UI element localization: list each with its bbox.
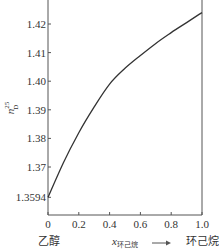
y-axis-ticks: 1.35941.371.381.391.401.411.42 (16, 18, 51, 203)
y-tick-label: 1.37 (27, 161, 47, 173)
x-axis-arrow-icon (166, 241, 171, 246)
x-tick-label: 0 (45, 218, 51, 230)
y-axis-label: n25D (3, 101, 20, 114)
y-tick-label: 1.39 (27, 104, 47, 116)
y-tick-label: 1.40 (27, 75, 47, 87)
x-tick-label: 0.2 (72, 218, 86, 230)
axes (48, 0, 202, 215)
x-tick-label: 0.6 (134, 218, 148, 230)
x-tick-label: 1.0 (195, 218, 209, 230)
data-curve (48, 13, 202, 198)
y-axis-label-text: n25D (3, 101, 20, 114)
x-right-annotation: 环己烷 (186, 234, 219, 248)
y-tick-label: 1.41 (27, 47, 46, 59)
x-left-annotation: 乙醇 (38, 234, 60, 248)
x-axis-label: x环己烷 (111, 235, 138, 249)
x-tick-label: 0.8 (164, 218, 178, 230)
y-tick-label: 1.42 (27, 18, 46, 30)
refractive-index-chart: 1.35941.371.381.391.401.411.42 00.20.40.… (0, 0, 219, 251)
x-tick-label: 0.4 (103, 218, 117, 230)
y-tick-label: 1.38 (27, 132, 47, 144)
y-tick-label: 1.3594 (16, 191, 47, 203)
